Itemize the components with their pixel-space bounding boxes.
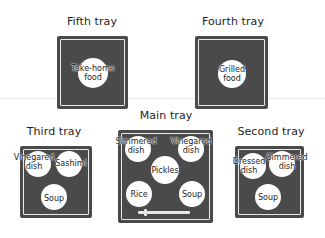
dish-label: Vinegared dish (14, 153, 55, 171)
fifth-tray-title: Fifth tray (67, 15, 117, 28)
dish-label: Grilled food (219, 65, 245, 83)
third-tray-title: Third tray (27, 125, 82, 138)
fourth-tray: Grilled food (195, 36, 268, 109)
dish-label: Vinegared dish (171, 137, 212, 155)
main-tray: Simmered dish Vinegared dish Pickles Ric… (118, 130, 213, 223)
second-tray: Dressed dish Simmered dish Soup (235, 146, 304, 218)
dish-label: Simmered dish (267, 153, 308, 171)
dish-label: Take-home food (71, 64, 114, 82)
main-tray-title: Main tray (140, 109, 193, 122)
dish-label: Soup (182, 190, 202, 199)
dish-label: Pickles (151, 166, 178, 175)
dish-label: Simmered dish (116, 137, 157, 155)
background-divider-line (0, 98, 325, 99)
dish-label: Sashimi (55, 159, 86, 168)
third-tray: Vinegared dish Sashimi Soup (20, 146, 92, 218)
second-tray-title: Second tray (237, 125, 304, 138)
dish-label: Soup (44, 194, 64, 203)
dish-label: Soup (258, 193, 278, 202)
dish-label: Dressed dish (233, 157, 266, 175)
chopstick-rest-icon (144, 209, 147, 216)
fourth-tray-title: Fourth tray (202, 15, 264, 28)
dish-label: Rice (130, 190, 147, 199)
fifth-tray: Take-home food (57, 36, 128, 109)
